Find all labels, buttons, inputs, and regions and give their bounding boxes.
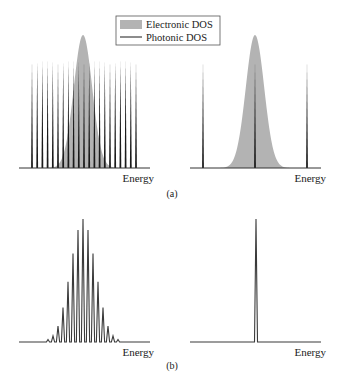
x-axis-label: Energy — [294, 346, 326, 358]
panel-a-right: Energy — [190, 35, 326, 184]
legend: Electronic DOS Photonic DOS — [116, 16, 220, 45]
x-axis-label: Energy — [122, 346, 154, 358]
photonic-mode-line — [42, 61, 44, 168]
panel-a-label: (a) — [166, 188, 177, 200]
photonic-mode-line — [109, 61, 111, 168]
photonic-mode-line — [306, 61, 308, 168]
photonic-mode-line — [125, 61, 127, 168]
photonic-mode-line — [62, 61, 64, 168]
x-axis-label: Energy — [122, 172, 154, 184]
photonic-modes — [202, 61, 308, 168]
figure: Energy Energy Electronic DOS Photonic DO… — [0, 0, 342, 389]
legend-swatch-electronic — [120, 20, 142, 29]
photonic-mode-line — [47, 61, 49, 168]
photonic-mode-line — [130, 61, 132, 168]
legend-label-electronic: Electronic DOS — [146, 19, 213, 30]
photonic-mode-line — [120, 61, 122, 168]
photonic-mode-line — [36, 61, 38, 168]
x-axis-label: Energy — [294, 172, 326, 184]
photonic-mode-line — [104, 61, 106, 168]
photonic-mode-line — [202, 61, 204, 168]
panel-b-label: (b) — [166, 360, 178, 372]
legend-label-photonic: Photonic DOS — [146, 32, 207, 43]
emission-spectrum — [19, 219, 150, 342]
photonic-mode-line — [68, 61, 70, 168]
emission-spectrum — [190, 219, 321, 342]
photonic-mode-line — [52, 61, 54, 168]
photonic-mode-line — [57, 61, 59, 168]
photonic-modes — [31, 61, 137, 168]
photonic-mode-line — [114, 61, 116, 168]
photonic-mode-line — [31, 61, 33, 168]
panel-a-left: Energy — [19, 35, 154, 184]
panel-b-right: Energy — [190, 219, 326, 358]
panel-b-left: Energy — [19, 219, 154, 358]
photonic-mode-line — [99, 61, 101, 168]
photonic-mode-line — [135, 61, 137, 168]
